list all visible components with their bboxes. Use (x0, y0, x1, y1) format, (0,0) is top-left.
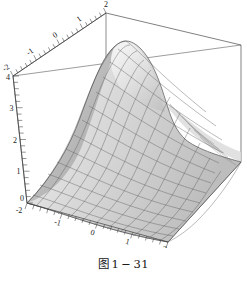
z-tick-label-0: 0 (20, 194, 24, 203)
surface-plot-3d: -2 -1 0 1 2 (0, 0, 247, 248)
z-tick-label-3: 3 (10, 104, 14, 113)
figure-container: -2 -1 0 1 2 (0, 0, 247, 282)
y-tick-label-0: 0 (51, 30, 59, 40)
y-tick-label--1: -1 (25, 46, 36, 57)
y-axis-ticks (11, 8, 107, 76)
z-tick-label-4: 4 (6, 73, 10, 82)
z-axis-left: 0 1 2 3 4 (6, 73, 33, 204)
caption-dash: − (121, 257, 131, 271)
x-tick-label-1: 1 (125, 237, 131, 247)
y-tick-label-2: 2 (104, 0, 108, 9)
figure-caption: 图1−31 (0, 255, 247, 271)
caption-cjk-label: 图 (98, 255, 110, 271)
y-tick-label-1: 1 (75, 14, 83, 24)
z-tick-label-2: 2 (13, 136, 17, 145)
x-tick-label--2: -2 (16, 206, 23, 215)
x-tick-label-2: 2 (163, 245, 167, 248)
caption-figure-number: 31 (133, 257, 149, 271)
x-tick-label-0: 0 (90, 228, 96, 238)
caption-chapter-number: 1 (111, 257, 119, 271)
x-tick-label--1: -1 (53, 217, 62, 227)
z-tick-label-1: 1 (17, 167, 21, 176)
y-axis-top-left: -2 -1 0 1 2 (1, 0, 108, 76)
